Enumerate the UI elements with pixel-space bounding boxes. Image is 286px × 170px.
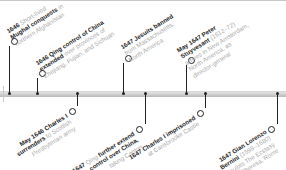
top-border xyxy=(0,0,286,1)
event-label: 1647 Gian Lorenzo Bernini (1598–1680) sc… xyxy=(215,128,280,170)
connector-line xyxy=(37,78,38,93)
event-label: 1646 Short-lived Mughal conquests in nor… xyxy=(5,0,68,47)
timeline-bar xyxy=(0,91,286,97)
event-node-icon xyxy=(268,126,275,133)
connector-line xyxy=(77,94,78,106)
event-label: May 1647 Peter Stuyvesant (1612–72) arri… xyxy=(175,8,257,79)
event-node-icon xyxy=(69,108,76,115)
connector-line xyxy=(123,63,124,93)
event-node-icon xyxy=(136,126,143,133)
event-label: May 1646 Charles I surrenders to Scottis… xyxy=(12,112,77,164)
event-node-icon xyxy=(197,110,204,117)
timeline-start-tick xyxy=(3,86,4,102)
event-label: 1647 Jesuits banned from Massachusetts, … xyxy=(119,12,182,63)
connector-line xyxy=(145,94,146,124)
connector-line xyxy=(277,94,278,124)
connector-line xyxy=(186,65,187,93)
connector-line xyxy=(205,94,206,108)
connector-line xyxy=(9,46,10,93)
